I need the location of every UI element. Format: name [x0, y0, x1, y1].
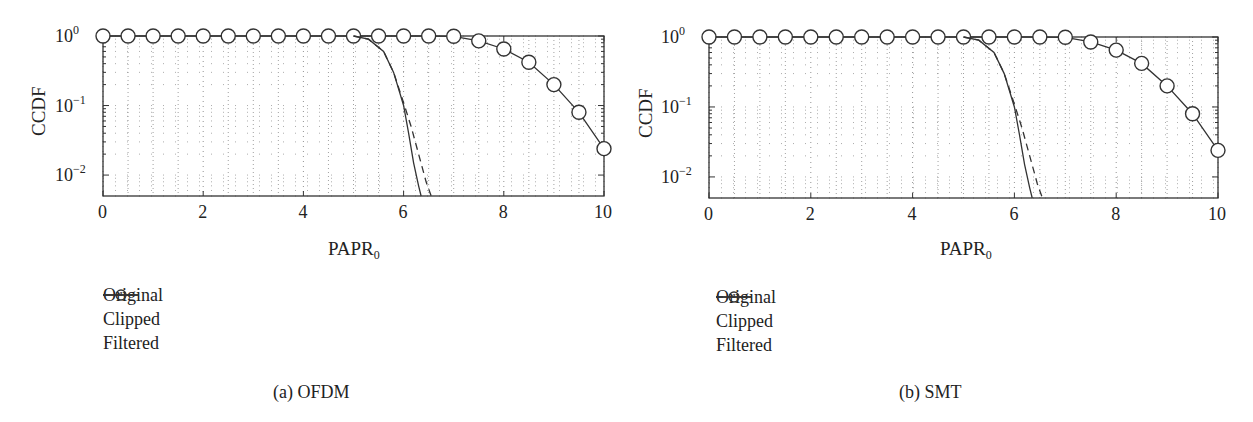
series-clipped [354, 36, 422, 196]
dashed-line-icon [103, 283, 139, 307]
legend-item-filtered: Filtered [716, 333, 776, 357]
data-marker [982, 30, 996, 44]
x-tick-label: 4 [298, 202, 307, 223]
y-tick-label: 100 [55, 23, 79, 47]
data-marker [296, 29, 310, 43]
legend: Original Clipped Filtered [716, 285, 776, 357]
data-marker [1186, 107, 1200, 121]
figure-caption: (a) OFDM [273, 382, 350, 403]
data-marker [372, 29, 386, 43]
x-tick-label: 6 [399, 202, 408, 223]
x-tick-label: 10 [594, 202, 612, 223]
y-axis-label: CCDF [28, 86, 50, 136]
data-marker [1058, 30, 1072, 44]
data-marker [1007, 30, 1021, 44]
x-tick-label: 10 [1208, 204, 1226, 225]
data-marker [271, 29, 285, 43]
data-marker [96, 29, 110, 43]
x-tick-label: 6 [1009, 204, 1018, 225]
x-axis-label-text: PAPR [328, 238, 374, 259]
data-marker [702, 30, 716, 44]
legend-label-clipped: Clipped [103, 307, 160, 331]
legend: Original Clipped Filtered [103, 283, 163, 355]
x-axis-label-subscript: 0 [374, 248, 380, 262]
x-axis-label: PAPR0 [940, 238, 992, 263]
data-marker [1160, 79, 1174, 93]
data-marker [321, 29, 335, 43]
data-marker [931, 30, 945, 44]
x-tick-label: 2 [806, 204, 815, 225]
chart-panel-ofdm: CCDF PAPR0 10010−110−2 0246810 Original … [0, 0, 620, 422]
dashed-line-icon [716, 285, 752, 309]
data-marker [522, 55, 536, 69]
x-tick-label: 0 [704, 204, 713, 225]
series-filtered [964, 37, 1043, 198]
data-marker [880, 30, 894, 44]
data-marker [1033, 30, 1047, 44]
y-tick-label: 100 [661, 24, 685, 48]
x-tick-label: 8 [499, 202, 508, 223]
data-marker [121, 29, 135, 43]
data-marker [906, 30, 920, 44]
data-marker [422, 29, 436, 43]
x-tick-label: 4 [908, 204, 917, 225]
data-marker [727, 30, 741, 44]
data-marker [246, 29, 260, 43]
y-axis-label: CCDF [635, 88, 657, 138]
y-tick-label: 10−1 [661, 94, 692, 118]
data-marker [472, 34, 486, 48]
data-marker [1211, 143, 1225, 157]
data-marker [572, 105, 586, 119]
y-tick-label: 10−2 [661, 164, 692, 188]
chart-panel-smt: CCDF PAPR0 10010−110−2 0246810 Original … [613, 0, 1233, 422]
x-axis-label: PAPR0 [328, 238, 380, 263]
data-marker [804, 30, 818, 44]
data-marker [753, 30, 767, 44]
data-marker [146, 29, 160, 43]
legend-label-filtered: Filtered [103, 331, 159, 355]
data-marker [397, 29, 411, 43]
x-tick-label: 2 [198, 202, 207, 223]
data-marker [171, 29, 185, 43]
data-marker [855, 30, 869, 44]
data-marker [778, 30, 792, 44]
y-tick-label: 10−1 [55, 93, 86, 117]
legend-label-filtered: Filtered [716, 333, 772, 357]
legend-item-clipped: Clipped [103, 307, 163, 331]
data-marker [221, 29, 235, 43]
data-marker [597, 142, 611, 156]
ccdf-plot-ofdm [0, 0, 620, 260]
y-tick-label: 10−2 [55, 162, 86, 186]
figure-caption: (b) SMT [899, 382, 962, 403]
legend-item-clipped: Clipped [716, 309, 776, 333]
data-marker [1135, 56, 1149, 70]
data-marker [1084, 35, 1098, 49]
data-marker [829, 30, 843, 44]
data-marker [447, 29, 461, 43]
legend-item-filtered: Filtered [103, 331, 163, 355]
data-marker [547, 78, 561, 92]
data-marker [497, 42, 511, 56]
x-axis-label-text: PAPR [940, 238, 986, 259]
x-tick-label: 8 [1111, 204, 1120, 225]
x-tick-label: 0 [98, 202, 107, 223]
data-marker [1109, 43, 1123, 57]
series-filtered [354, 36, 432, 196]
legend-label-clipped: Clipped [716, 309, 773, 333]
x-axis-label-subscript: 0 [986, 248, 992, 262]
data-marker [196, 29, 210, 43]
